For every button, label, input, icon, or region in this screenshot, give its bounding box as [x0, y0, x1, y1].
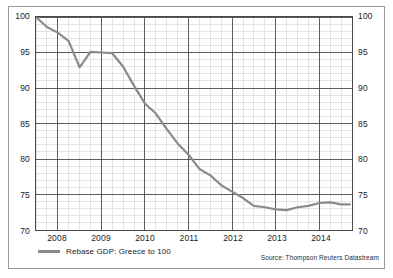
- y-axis-left-tick: 85: [2, 120, 30, 128]
- x-axis-tick: 2010: [125, 234, 165, 243]
- chart-figure: 100 95 90 85 80 75 70 100 95 90 85 80 75…: [0, 0, 393, 278]
- x-axis-tick: 2013: [257, 234, 297, 243]
- x-axis-tick: 2014: [301, 234, 341, 243]
- x-axis-tick: 2012: [213, 234, 253, 243]
- data-series-layer: [36, 17, 352, 230]
- y-axis-left-tick: 100: [2, 12, 30, 20]
- y-axis-left-tick: 75: [2, 191, 30, 199]
- y-axis-right-tick: 90: [358, 84, 386, 92]
- source-note: Source: Thompson Reuters Datastream: [261, 254, 379, 261]
- legend-color-swatch: [38, 250, 60, 253]
- y-axis-right-tick: 75: [358, 191, 386, 199]
- y-axis-left-tick: 70: [2, 227, 30, 235]
- legend-entry-label: Rebase GDP: Greece to 100: [66, 247, 171, 256]
- y-axis-right-tick: 100: [358, 12, 386, 20]
- plot-area: [35, 16, 353, 231]
- x-axis-tick: 2008: [37, 234, 77, 243]
- y-axis-right-tick: 70: [358, 227, 386, 235]
- x-axis-tick: 2009: [81, 234, 121, 243]
- y-axis-right-tick: 85: [358, 120, 386, 128]
- y-axis-left-tick: 90: [2, 84, 30, 92]
- x-axis-tick: 2011: [169, 234, 209, 243]
- data-line-rebase-gdp-greece-to-100: [36, 17, 350, 210]
- y-axis-right-tick: 80: [358, 155, 386, 163]
- y-axis-left-tick: 80: [2, 155, 30, 163]
- y-axis-right-tick: 95: [358, 48, 386, 56]
- chart-legend: Rebase GDP: Greece to 100: [38, 247, 171, 256]
- y-axis-left-tick: 95: [2, 48, 30, 56]
